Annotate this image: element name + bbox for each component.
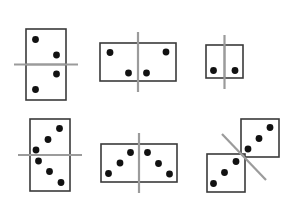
domino-top-left-pip-4: [32, 86, 39, 93]
domino-top-right: [206, 35, 243, 89]
domino-bottom-left-pip-3: [33, 147, 40, 154]
domino-bottom-middle-pip-2: [117, 160, 124, 167]
domino-figure-canvas: [0, 0, 293, 223]
domino-bottom-right: [207, 119, 279, 192]
domino-bottom-right-pip-4: [233, 158, 240, 165]
domino-bottom-left-pip-1: [56, 125, 63, 132]
domino-top-middle: [100, 32, 176, 92]
domino-top-left: [14, 29, 78, 100]
domino-bottom-middle-pip-5: [155, 160, 162, 167]
domino-bottom-left-pip-2: [45, 136, 52, 143]
domino-bottom-right-pip-6: [210, 180, 217, 187]
domino-bottom-middle-pip-6: [166, 171, 173, 178]
domino-bottom-right-pip-5: [221, 169, 228, 176]
domino-top-middle-pip-4: [163, 49, 170, 56]
domino-top-right-pip-1: [210, 67, 217, 74]
domino-bottom-middle: [101, 133, 177, 193]
domino-bottom-middle-pip-1: [127, 149, 134, 156]
domino-bottom-right-pip-1: [267, 124, 274, 131]
domino-bottom-left-pip-6: [58, 179, 65, 186]
domino-bottom-right-pip-3: [245, 146, 252, 153]
domino-top-middle-pip-1: [107, 49, 114, 56]
domino-bottom-right-pip-2: [256, 135, 263, 142]
domino-top-middle-pip-3: [143, 70, 150, 77]
domino-figure-svg: [0, 0, 293, 223]
domino-bottom-left-pip-5: [46, 168, 53, 175]
domino-bottom-middle-pip-3: [105, 170, 112, 177]
domino-bottom-middle-pip-4: [144, 149, 151, 156]
domino-top-right-pip-2: [232, 67, 239, 74]
domino-top-left-pip-3: [53, 71, 60, 78]
domino-top-middle-pip-2: [125, 70, 132, 77]
domino-bottom-left-pip-4: [35, 158, 42, 165]
domino-bottom-left: [18, 119, 82, 191]
domino-top-left-pip-1: [32, 36, 39, 43]
domino-top-left-pip-2: [53, 52, 60, 59]
